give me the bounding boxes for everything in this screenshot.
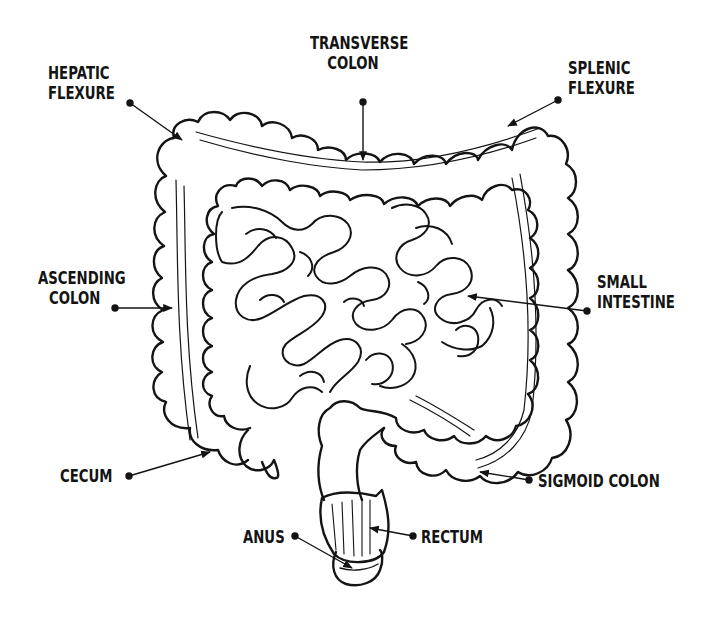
colon-outline [152, 112, 577, 483]
label-cecum: CECUM [60, 466, 112, 486]
leader-rectum [370, 528, 413, 536]
sigmoid-colon-outline [318, 401, 424, 500]
colon-inner-outline [203, 179, 538, 444]
leader-cecum [129, 452, 210, 476]
label-transverse-colon: TRANSVERSE COLON [310, 33, 408, 73]
label-sigmoid-colon: SIGMOID COLON [538, 471, 660, 491]
label-splenic-flexure: SPLENIC FLEXURE [568, 58, 635, 98]
label-anus: ANUS [243, 527, 285, 547]
cecum-outline [239, 430, 278, 478]
leader-hepatic-flexure [130, 103, 182, 140]
label-hepatic-flexure: HEPATIC FLEXURE [48, 63, 115, 103]
label-ascending-colon: ASCENDING COLON [38, 268, 126, 308]
label-small-intestine: SMALL INTESTINE [597, 272, 675, 312]
small-intestine-coils [216, 205, 502, 409]
label-rectum: RECTUM [421, 527, 483, 547]
rectum-outline [321, 490, 389, 562]
leader-splenic-flexure [508, 100, 558, 126]
